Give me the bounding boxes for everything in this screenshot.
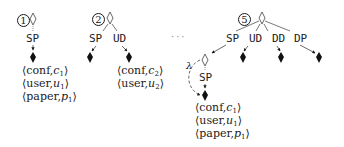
step-badge: 2 xyxy=(92,13,105,26)
node-label: SP xyxy=(89,33,102,45)
hollow-diamond-icon xyxy=(202,54,208,66)
tuple: ⟨conf,c1⟩ xyxy=(195,101,241,114)
filled-diamond-icon xyxy=(316,52,322,63)
node-label: UD xyxy=(249,33,262,45)
step-badge: 1 xyxy=(17,14,30,27)
node-label: SP xyxy=(199,72,212,84)
node-label: SP xyxy=(226,33,239,45)
tuple: ⟨conf,c2⟩ xyxy=(117,64,163,77)
tuple: ⟨user,u1⟩ xyxy=(195,114,242,127)
tree-diagram: 1 SP ⟨conf,c1⟩ ⟨user,u1⟩ ⟨paper,p1⟩ 2 SP… xyxy=(0,0,344,147)
node-label: UD xyxy=(113,33,126,45)
node-label: DP xyxy=(294,33,307,45)
panel-5-edges xyxy=(189,12,322,101)
filled-diamond-icon xyxy=(202,90,208,101)
ellipsis: ··· xyxy=(171,31,187,42)
tuple: ⟨conf,c1⟩ xyxy=(22,64,68,77)
filled-diamond-icon xyxy=(126,52,132,63)
step-badge: 5 xyxy=(238,13,251,26)
tuple: ⟨paper,p1⟩ xyxy=(22,90,77,103)
filled-diamond-icon xyxy=(278,52,284,63)
node-label: SP xyxy=(26,33,39,45)
node-label: DD xyxy=(272,33,285,45)
hollow-diamond-icon xyxy=(259,12,265,24)
hollow-diamond-icon xyxy=(30,13,36,25)
tuple: ⟨user,u1⟩ xyxy=(22,77,69,90)
filled-diamond-icon xyxy=(87,52,93,63)
hollow-diamond-icon xyxy=(107,12,113,24)
filled-diamond-icon xyxy=(240,52,246,63)
filled-diamond-icon xyxy=(30,52,36,63)
tuple: ⟨paper,p1⟩ xyxy=(195,127,250,140)
lambda-label: λ xyxy=(186,60,192,71)
tuple: ⟨user,u2⟩ xyxy=(117,77,164,90)
